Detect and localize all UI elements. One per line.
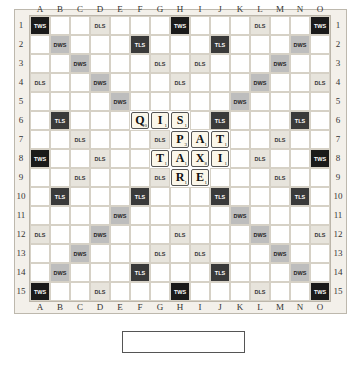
board-square[interactable] [230, 54, 250, 73]
premium-square-tws[interactable]: TWS [170, 16, 190, 35]
board-square[interactable] [210, 168, 230, 187]
board-square[interactable] [50, 244, 70, 263]
board-square[interactable] [270, 149, 290, 168]
board-square[interactable] [230, 168, 250, 187]
board-square[interactable] [270, 282, 290, 301]
board-square[interactable] [210, 282, 230, 301]
board-square[interactable] [230, 282, 250, 301]
premium-square-dls[interactable]: DLS [90, 282, 110, 301]
board-square[interactable] [270, 92, 290, 111]
board-square[interactable] [30, 111, 50, 130]
board-square[interactable] [170, 54, 190, 73]
board-square[interactable] [230, 73, 250, 92]
board-square[interactable] [90, 35, 110, 54]
board-square[interactable] [50, 92, 70, 111]
board-square[interactable] [90, 168, 110, 187]
board-square[interactable] [90, 187, 110, 206]
premium-square-tls[interactable]: TLS [50, 187, 70, 206]
board-square[interactable] [70, 149, 90, 168]
board-square[interactable] [90, 244, 110, 263]
board-square[interactable] [130, 130, 150, 149]
letter-tile[interactable]: T1 [211, 131, 229, 148]
board-square[interactable] [270, 187, 290, 206]
board-square[interactable] [250, 244, 270, 263]
board-square[interactable] [290, 282, 310, 301]
premium-square-dls[interactable]: DLS [150, 130, 170, 149]
premium-square-tws[interactable]: TWS [30, 282, 50, 301]
board-square[interactable] [270, 225, 290, 244]
letter-tile[interactable]: A1 [191, 131, 209, 148]
board-square[interactable] [110, 187, 130, 206]
board-square[interactable] [110, 16, 130, 35]
board-square[interactable] [110, 54, 130, 73]
board-square[interactable] [150, 225, 170, 244]
premium-square-dls[interactable]: DLS [250, 282, 270, 301]
letter-tile[interactable]: Q10 [131, 112, 149, 129]
letter-tile[interactable]: I1 [151, 112, 169, 129]
board-square[interactable] [90, 54, 110, 73]
board-square[interactable] [250, 206, 270, 225]
board-square[interactable] [110, 111, 130, 130]
input-box[interactable] [122, 331, 245, 353]
premium-square-dws[interactable]: DWS [290, 263, 310, 282]
board-square[interactable] [250, 168, 270, 187]
premium-square-dls[interactable]: DLS [270, 130, 290, 149]
board-square[interactable] [230, 130, 250, 149]
board-square[interactable] [30, 187, 50, 206]
board-square[interactable] [250, 35, 270, 54]
board-square[interactable] [130, 244, 150, 263]
board-square[interactable] [70, 225, 90, 244]
board-square[interactable] [270, 16, 290, 35]
board-square[interactable] [50, 130, 70, 149]
premium-square-dws[interactable]: DWS [70, 54, 90, 73]
premium-square-dls[interactable]: DLS [250, 149, 270, 168]
premium-square-tls[interactable]: TLS [130, 35, 150, 54]
premium-square-dls[interactable]: DLS [250, 16, 270, 35]
board-square[interactable] [50, 168, 70, 187]
board-square[interactable] [30, 92, 50, 111]
board-square[interactable] [30, 130, 50, 149]
board-square[interactable] [110, 168, 130, 187]
board-square[interactable] [130, 206, 150, 225]
board-square[interactable] [150, 73, 170, 92]
board-square[interactable] [50, 206, 70, 225]
premium-square-dls[interactable]: DLS [190, 54, 210, 73]
board-square[interactable] [310, 54, 330, 73]
board-square[interactable] [150, 16, 170, 35]
board-square[interactable] [130, 225, 150, 244]
premium-square-dls[interactable]: DLS [270, 168, 290, 187]
board-square[interactable] [170, 244, 190, 263]
board-square[interactable] [270, 73, 290, 92]
board-square[interactable] [290, 54, 310, 73]
board-square[interactable] [290, 92, 310, 111]
premium-square-dws[interactable]: DWS [270, 244, 290, 263]
board-square[interactable] [310, 206, 330, 225]
premium-square-dws[interactable]: DWS [290, 35, 310, 54]
board-square[interactable] [90, 206, 110, 225]
board-square[interactable] [170, 187, 190, 206]
board-square[interactable] [210, 225, 230, 244]
letter-tile[interactable]: R1 [171, 169, 189, 186]
board-square[interactable] [50, 149, 70, 168]
board-square[interactable] [210, 73, 230, 92]
premium-square-dls[interactable]: DLS [70, 130, 90, 149]
board-square[interactable] [70, 73, 90, 92]
premium-square-tws[interactable]: TWS [310, 149, 330, 168]
board-square[interactable] [190, 225, 210, 244]
board-square[interactable] [130, 282, 150, 301]
premium-square-tls[interactable]: TLS [50, 111, 70, 130]
premium-square-tws[interactable]: TWS [30, 16, 50, 35]
board-square[interactable] [130, 73, 150, 92]
board-square[interactable] [310, 111, 330, 130]
premium-square-dls[interactable]: DLS [30, 73, 50, 92]
board-square[interactable] [110, 263, 130, 282]
board-square[interactable] [50, 73, 70, 92]
board-square[interactable] [190, 111, 210, 130]
premium-square-dls[interactable]: DLS [70, 168, 90, 187]
letter-tile[interactable]: A1 [171, 150, 189, 167]
board-square[interactable] [230, 35, 250, 54]
board-square[interactable] [250, 92, 270, 111]
premium-square-dws[interactable]: DWS [230, 206, 250, 225]
board-square[interactable] [310, 263, 330, 282]
premium-square-tws[interactable]: TWS [310, 16, 330, 35]
